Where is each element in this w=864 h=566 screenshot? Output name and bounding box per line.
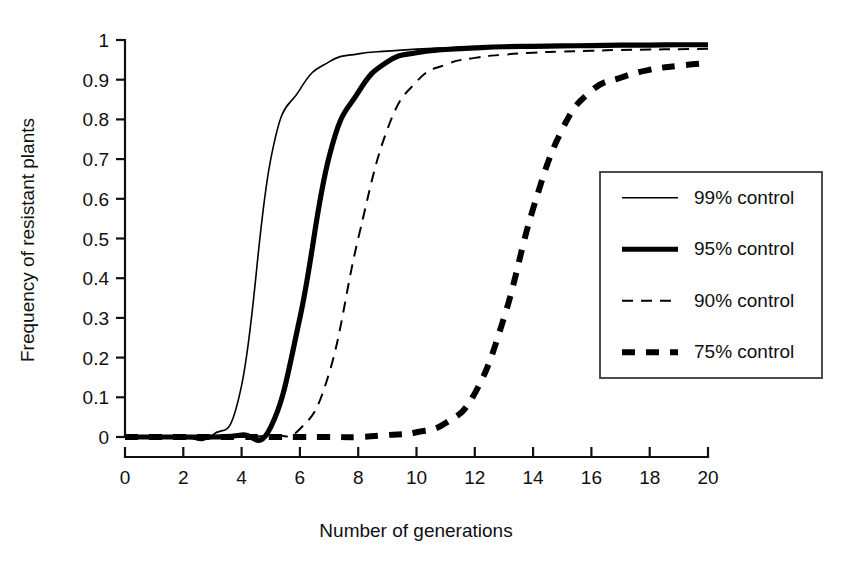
y-tick-label: 0.3 [83,308,109,329]
x-tick-label: 0 [120,467,131,488]
x-axis: 02468101214161820 [120,447,719,488]
legend-label-95-control: 95% control [694,238,794,259]
y-tick-label: 0 [98,427,109,448]
chart-legend: 99% control95% control90% control75% con… [600,172,822,378]
y-tick-label: 0.2 [83,348,109,369]
x-tick-label: 14 [523,467,545,488]
x-tick-label: 4 [236,467,247,488]
x-tick-label: 8 [353,467,364,488]
y-axis-title: Frequency of resistant plants [17,118,38,362]
legend-label-99-control: 99% control [694,187,794,208]
y-tick-label: 0.9 [83,70,109,91]
y-tick-label: 0.6 [83,189,109,210]
legend-label-90-control: 90% control [694,290,794,311]
x-tick-label: 20 [697,467,718,488]
y-tick-label: 0.5 [83,229,109,250]
x-tick-label: 12 [464,467,485,488]
x-tick-label: 18 [639,467,660,488]
x-axis-title: Number of generations [319,520,512,541]
x-tick-label: 6 [295,467,306,488]
x-tick-label: 2 [178,467,189,488]
figure-container: 00.10.20.30.40.50.60.70.80.91 0246810121… [0,0,864,566]
y-tick-label: 0.1 [83,387,109,408]
y-tick-label: 0.4 [83,268,110,289]
line-chart: 00.10.20.30.40.50.60.70.80.91 0246810121… [0,0,864,566]
y-tick-label: 1 [98,30,109,51]
y-tick-label: 0.8 [83,109,109,130]
y-axis: 00.10.20.30.40.50.60.70.80.91 [83,30,125,448]
legend-label-75-control: 75% control [694,341,794,362]
x-tick-label: 10 [406,467,427,488]
y-tick-label: 0.7 [83,149,109,170]
x-tick-label: 16 [581,467,602,488]
